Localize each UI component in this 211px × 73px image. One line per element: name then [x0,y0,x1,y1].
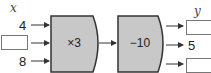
output-value-2: 5 [188,38,195,53]
output-blank-box-1[interactable] [186,20,211,35]
machine-2-operation: −10 [118,36,162,50]
input-value-3: 8 [19,54,26,69]
input-blank-box[interactable] [1,35,28,50]
input-value-1: 4 [19,18,26,33]
input-label-x: x [10,1,17,15]
output-blank-box-3[interactable] [186,58,211,73]
machine-1-operation: ×3 [51,36,97,50]
output-label-y: y [194,4,201,18]
function-machine-diagram [0,0,211,73]
